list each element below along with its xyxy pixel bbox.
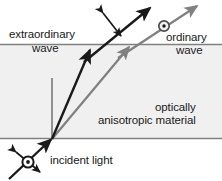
label-extraordinary: extraordinary [9, 28, 75, 41]
label-incident-light: incident light [50, 154, 113, 167]
ordinary-polarization-dot [162, 24, 165, 27]
label-ordinary-wave: wave [176, 44, 202, 57]
label-anisotropic-material: anisotropic material [98, 114, 196, 127]
double-refraction-diagram: extraordinary wave ordinary wave optical… [0, 0, 222, 181]
label-ordinary: ordinary [166, 31, 207, 44]
incident-polarization-dot [26, 160, 30, 164]
label-optically: optically [155, 101, 196, 114]
extraordinary-polarization-double-arrow [103, 13, 121, 36]
label-extraordinary-wave: wave [32, 42, 58, 55]
